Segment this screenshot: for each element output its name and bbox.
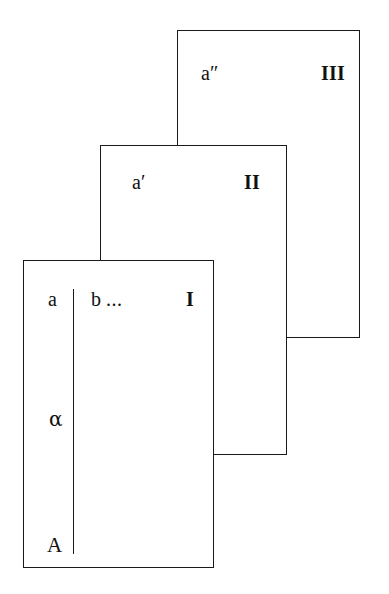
column-divider (73, 289, 74, 554)
card-i-roman-numeral: I (186, 289, 194, 309)
card-iii-roman-numeral: III (321, 63, 345, 83)
row-label-a-lower: a (48, 289, 57, 309)
row-label-b-ellipsis: b ... (91, 289, 123, 309)
row-label-alpha: α (49, 409, 63, 429)
card-ii-roman-numeral: II (244, 172, 260, 192)
diagram-canvas: a″ III a′ II a α A b ... I (0, 0, 389, 594)
card-ii-symbol-label: a′ (132, 172, 145, 192)
card-iii-symbol-label: a″ (201, 63, 218, 83)
card-i[interactable]: a α A b ... I (23, 260, 214, 568)
row-label-a-upper: A (47, 535, 62, 556)
